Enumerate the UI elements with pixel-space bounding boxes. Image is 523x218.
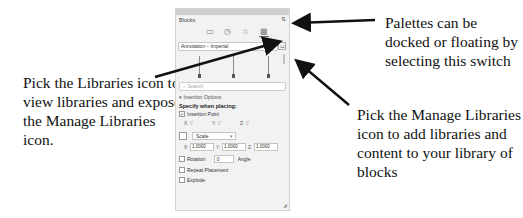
- scale-z-input[interactable]: 1.0000: [254, 143, 278, 151]
- search-input[interactable]: ⌕ Search: [179, 82, 286, 91]
- library-select-value: Annotation – Imperial: [181, 43, 228, 49]
- scale-select-value: Scale: [196, 133, 209, 139]
- repeat-placement-checkbox[interactable]: [179, 167, 185, 173]
- palette-tabs: ▭ ◷ ☆ ▦: [176, 25, 289, 39]
- chevron-down-icon: ▾: [230, 133, 233, 139]
- scale-x-input[interactable]: 1.0000: [190, 143, 214, 151]
- arrow-to-dock-switch: [296, 20, 375, 23]
- library-row: Annotation – Imperial ▾ ▭: [176, 42, 289, 52]
- repeat-placement-row: Repeat Placement: [179, 167, 289, 173]
- tab-current-drawing-icon[interactable]: ▭: [205, 27, 215, 37]
- manage-libraries-icon[interactable]: ▭: [278, 42, 286, 50]
- insertion-x-value: 0': [190, 120, 210, 127]
- block-thumbnail[interactable]: [267, 56, 270, 78]
- block-thumbnail[interactable]: [198, 56, 201, 78]
- rotation-row: Rotation 0 Angle: [179, 155, 289, 163]
- y-label: Y:: [212, 121, 216, 126]
- block-preview-list: [176, 54, 289, 80]
- tab-recent-icon[interactable]: ◷: [223, 27, 233, 37]
- insertion-options-toggle[interactable]: ▾ Insertion Options: [179, 94, 289, 100]
- scale-row: Scale ▾: [179, 132, 289, 140]
- insertion-point-checkbox[interactable]: ✓: [179, 111, 185, 117]
- insertion-z-value: 0': [246, 120, 266, 127]
- tab-favorites-icon[interactable]: ☆: [241, 27, 251, 37]
- repeat-placement-label: Repeat Placement: [187, 167, 228, 173]
- tab-libraries-icon[interactable]: ▦: [259, 27, 269, 37]
- scale-select[interactable]: Scale ▾: [192, 132, 236, 140]
- x-label: X:: [184, 145, 188, 150]
- palette-header: Blocks ⇅: [176, 15, 289, 25]
- angle-label: Angle: [238, 156, 251, 162]
- blocks-palette: Blocks ⇅ ▭ ◷ ☆ ▦ Annotation – Imperial ▾…: [175, 8, 290, 211]
- scale-checkbox[interactable]: [179, 132, 187, 140]
- dock-float-switch-icon[interactable]: ⇅: [280, 16, 286, 23]
- arrow-to-manage-libraries: [298, 62, 349, 105]
- preview-scrollbar[interactable]: [283, 54, 285, 64]
- chevron-down-icon: ▾: [272, 43, 275, 50]
- scale-coords: X: 1.0000 Y: 1.0000 Z: 1.0000: [184, 143, 289, 151]
- z-label: Z:: [240, 121, 244, 126]
- block-thumbnail[interactable]: [232, 56, 235, 78]
- insertion-point-coords: X: 0' Y: 0' Z: 0': [184, 120, 289, 127]
- insertion-point-row: ✓ Insertion Point: [179, 111, 289, 117]
- z-label: Z:: [248, 145, 252, 150]
- specify-label: Specify when placing:: [179, 103, 289, 109]
- library-select[interactable]: Annotation – Imperial ▾: [178, 42, 278, 51]
- callout-libraries-icon: Pick the Libraries icon to view librarie…: [23, 73, 183, 149]
- insertion-point-label: Insertion Point: [187, 111, 219, 117]
- rotation-input[interactable]: 0: [214, 155, 234, 163]
- scale-y-input[interactable]: 1.0000: [222, 143, 246, 151]
- y-label: Y:: [216, 145, 220, 150]
- insertion-y-value: 0': [218, 120, 238, 127]
- explode-row: Explode: [179, 177, 289, 183]
- callout-dock-switch: Palettes can be docked or floating by se…: [385, 13, 520, 70]
- rotation-label: Rotation: [187, 156, 206, 162]
- rotation-checkbox[interactable]: [179, 156, 185, 162]
- x-label: X:: [184, 121, 188, 126]
- explode-checkbox[interactable]: [179, 177, 185, 183]
- resize-grip-icon[interactable]: ◢: [283, 202, 287, 208]
- search-placeholder: Search: [187, 83, 203, 89]
- explode-label: Explode: [187, 177, 205, 183]
- palette-title: Blocks: [179, 17, 195, 23]
- callout-manage-libraries: Pick the Manage Libraries icon to add li…: [357, 105, 522, 181]
